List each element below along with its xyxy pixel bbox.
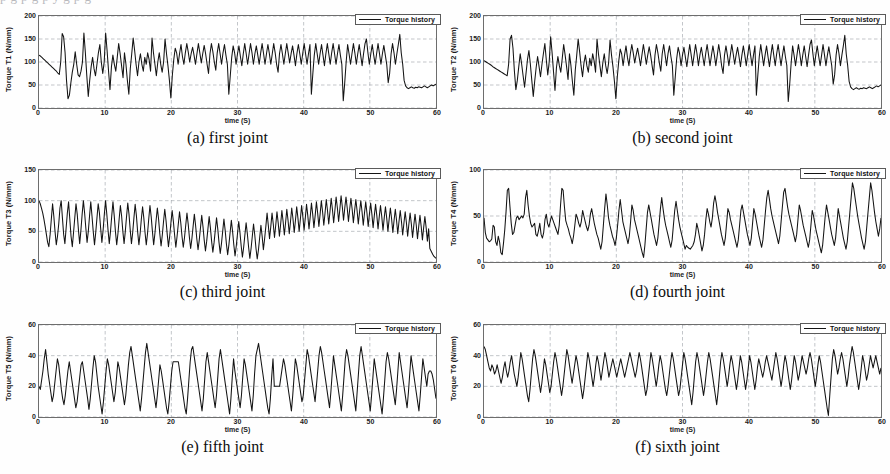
y-tick-label: 100 bbox=[469, 166, 481, 173]
plot-b: Torque T2 (N/mm) 050100150200 Torque his… bbox=[445, 11, 890, 129]
y-ticks-b: 050100150200 bbox=[461, 11, 481, 107]
legend-line-icon bbox=[359, 173, 381, 174]
legend-label: Torque history bbox=[830, 170, 880, 177]
legend-f: Torque history bbox=[800, 323, 886, 334]
y-tick-label: 200 bbox=[24, 12, 36, 19]
plot-svg-a bbox=[39, 16, 436, 108]
y-axis-label-f: Torque T6 (N/mm) bbox=[447, 320, 461, 416]
plot-svg-f bbox=[484, 325, 881, 417]
x-tick-label: 60 bbox=[878, 263, 886, 270]
x-tick-label: 60 bbox=[878, 418, 886, 425]
x-tick-label: 60 bbox=[433, 263, 441, 270]
x-axis-label-f: time (S) bbox=[483, 426, 882, 433]
caption-e: (e) fifth joint bbox=[0, 438, 445, 456]
x-axis-label-e: time (S) bbox=[38, 426, 437, 433]
x-tick-label: 10 bbox=[101, 109, 109, 116]
legend-c: Torque history bbox=[355, 168, 441, 179]
x-tick-label: 50 bbox=[367, 263, 375, 270]
x-tick-label: 50 bbox=[812, 109, 820, 116]
figure-sheet: p g p g p y g p g Torque T1 (N/mm) 05010… bbox=[0, 0, 890, 474]
x-tick-label: 10 bbox=[546, 263, 554, 270]
x-tick-label: 30 bbox=[679, 109, 687, 116]
panel-c: Torque T3 (N/mm) 050100150 Torque histor… bbox=[0, 165, 445, 320]
x-tick-label: 20 bbox=[612, 418, 620, 425]
y-tick-label: 20 bbox=[28, 382, 36, 389]
legend-label: Torque history bbox=[385, 170, 435, 177]
x-tick-label: 20 bbox=[167, 109, 175, 116]
y-tick-label: 100 bbox=[469, 58, 481, 65]
y-tick-label: 150 bbox=[24, 35, 36, 42]
figure-panel-grid: Torque T1 (N/mm) 050100150200 Torque his… bbox=[0, 11, 890, 474]
x-tick-label: 40 bbox=[300, 418, 308, 425]
x-tick-label: 20 bbox=[612, 263, 620, 270]
y-ticks-e: 0204060 bbox=[16, 320, 36, 416]
x-tick-label: 20 bbox=[612, 109, 620, 116]
y-tick-label: 40 bbox=[28, 351, 36, 358]
legend-a: Torque history bbox=[355, 14, 441, 25]
x-tick-label: 30 bbox=[679, 418, 687, 425]
plot-svg-c bbox=[39, 170, 436, 262]
clipped-text-line: p g p g p y g p g bbox=[0, 0, 890, 11]
plot-c: Torque T3 (N/mm) 050100150 Torque histor… bbox=[0, 165, 445, 283]
x-tick-label: 50 bbox=[812, 263, 820, 270]
plot-svg-e bbox=[39, 325, 436, 417]
panel-d: Torque T4 (N/mm) 050100 Torque history 0… bbox=[445, 165, 890, 320]
x-axis-label-a: time (S) bbox=[38, 117, 437, 124]
plot-area-c bbox=[38, 169, 437, 263]
x-tick-label: 50 bbox=[812, 418, 820, 425]
caption-c: (c) third joint bbox=[0, 283, 445, 301]
y-ticks-c: 050100150 bbox=[16, 165, 36, 261]
y-tick-label: 200 bbox=[469, 12, 481, 19]
y-tick-label: 50 bbox=[473, 212, 481, 219]
x-tick-label: 10 bbox=[546, 418, 554, 425]
x-tick-label: 40 bbox=[745, 263, 753, 270]
y-tick-label: 60 bbox=[28, 321, 36, 328]
x-tick-label: 30 bbox=[234, 418, 242, 425]
y-tick-label: 50 bbox=[473, 81, 481, 88]
x-tick-label: 60 bbox=[878, 109, 886, 116]
legend-label: Torque history bbox=[385, 16, 435, 23]
x-tick-label: 50 bbox=[367, 418, 375, 425]
x-tick-label: 10 bbox=[101, 418, 109, 425]
x-tick-label: 40 bbox=[300, 109, 308, 116]
legend-e: Torque history bbox=[355, 323, 441, 334]
x-tick-label: 60 bbox=[433, 109, 441, 116]
x-tick-label: 0 bbox=[36, 418, 40, 425]
clipped-text: p g p g p y g p g bbox=[0, 0, 91, 4]
caption-d: (d) fourth joint bbox=[445, 283, 890, 301]
panel-f: Torque T6 (N/mm) 0204060 Torque history … bbox=[445, 320, 890, 474]
x-tick-label: 0 bbox=[36, 109, 40, 116]
plot-area-a bbox=[38, 15, 437, 109]
x-tick-label: 0 bbox=[481, 418, 485, 425]
y-tick-label: 50 bbox=[28, 81, 36, 88]
x-tick-label: 30 bbox=[679, 263, 687, 270]
x-tick-label: 60 bbox=[433, 418, 441, 425]
plot-svg-d bbox=[484, 170, 881, 262]
plot-area-e bbox=[38, 324, 437, 418]
legend-d: Torque history bbox=[800, 168, 886, 179]
x-tick-label: 50 bbox=[367, 109, 375, 116]
legend-label: Torque history bbox=[385, 325, 435, 332]
panel-a: Torque T1 (N/mm) 050100150200 Torque his… bbox=[0, 11, 445, 165]
y-tick-label: 150 bbox=[469, 35, 481, 42]
y-tick-label: 60 bbox=[473, 321, 481, 328]
x-tick-label: 0 bbox=[36, 263, 40, 270]
y-tick-label: 100 bbox=[24, 58, 36, 65]
panel-b: Torque T2 (N/mm) 050100150200 Torque his… bbox=[445, 11, 890, 165]
plot-e: Torque T5 (N/mm) 0204060 Torque history … bbox=[0, 320, 445, 438]
plot-f: Torque T6 (N/mm) 0204060 Torque history … bbox=[445, 320, 890, 438]
x-tick-label: 40 bbox=[745, 418, 753, 425]
legend-line-icon bbox=[359, 328, 381, 329]
x-tick-label: 40 bbox=[300, 263, 308, 270]
x-tick-label: 0 bbox=[481, 263, 485, 270]
legend-label: Torque history bbox=[830, 16, 880, 23]
x-tick-label: 20 bbox=[167, 418, 175, 425]
plot-a: Torque T1 (N/mm) 050100150200 Torque his… bbox=[0, 11, 445, 129]
legend-label: Torque history bbox=[830, 325, 880, 332]
x-tick-label: 30 bbox=[234, 263, 242, 270]
x-tick-label: 10 bbox=[101, 263, 109, 270]
x-axis-label-d: time (S) bbox=[483, 271, 882, 278]
y-axis-label-c: Torque T3 (N/mm) bbox=[2, 165, 16, 261]
y-tick-label: 150 bbox=[24, 166, 36, 173]
plot-svg-b bbox=[484, 16, 881, 108]
